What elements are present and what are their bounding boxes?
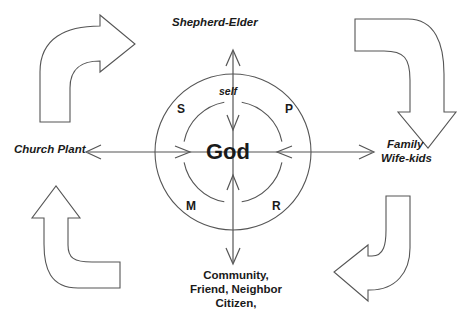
label-god: God — [206, 139, 250, 165]
label-quadrant-s: S — [177, 102, 185, 116]
bottom-right-arrow — [334, 196, 410, 301]
label-shepherd-elder: Shepherd-Elder — [172, 16, 258, 30]
label-citizen: Citizen, — [196, 297, 276, 311]
top-right-arrow — [355, 19, 456, 148]
label-quadrant-p: P — [285, 102, 293, 116]
diagram-canvas: Shepherd-Elder Church Plant Family Wife-… — [0, 0, 466, 321]
bottom-left-arrow — [32, 186, 120, 288]
label-quadrant-r: R — [272, 199, 281, 213]
label-community: Community, — [191, 269, 281, 283]
top-left-arrow — [40, 15, 135, 122]
label-church-plant: Church Plant — [14, 143, 86, 157]
label-self: self — [219, 85, 237, 97]
label-quadrant-m: M — [186, 199, 196, 213]
label-wife-kids: Wife-kids — [381, 152, 432, 166]
label-family: Family — [387, 138, 423, 152]
label-friend-neighbor: Friend, Neighbor — [176, 283, 296, 297]
